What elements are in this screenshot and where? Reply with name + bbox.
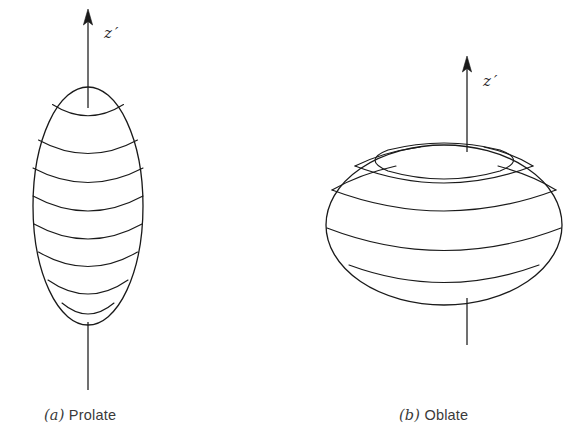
- prolate-latitude-line-4: [33, 196, 143, 211]
- caption-prolate-enumerator: (a): [44, 407, 65, 423]
- oblate-panel: z ′: [326, 56, 562, 345]
- oblate-latitude-line-1: [375, 143, 514, 179]
- caption-oblate-enumerator: (b): [399, 407, 420, 423]
- prolate-body-outline: [33, 87, 143, 325]
- prolate-latitude-line-3: [33, 168, 143, 183]
- prolate-latitude-line-2: [39, 140, 138, 154]
- oblate-body-outline: [326, 145, 562, 305]
- oblate-latitude-line-3-front: [332, 190, 556, 211]
- oblate-latitude-line-4-front: [327, 228, 561, 251]
- prolate-panel: z ′: [33, 9, 143, 390]
- caption-oblate-word: Oblate: [424, 407, 468, 423]
- oblate-latitude-line-5-front: [349, 265, 539, 283]
- caption-prolate: (a) Prolate: [44, 407, 116, 423]
- caption-prolate-word: Prolate: [69, 407, 116, 423]
- prolate-latitude-line-6: [39, 252, 138, 267]
- prolate-latitude-line-5: [34, 224, 142, 239]
- prolate-latitude-line-7: [48, 280, 128, 294]
- prolate-latitude-line-8: [62, 303, 114, 314]
- spheroid-figure-canvas: z ′: [0, 0, 581, 440]
- caption-oblate: (b) Oblate: [399, 407, 468, 423]
- prolate-axis-label: z ′: [103, 24, 119, 42]
- figure-root: z ′: [0, 0, 581, 440]
- oblate-axis-label: z ′: [482, 72, 498, 90]
- oblate-latitude-line-2-back-right: [484, 147, 533, 166]
